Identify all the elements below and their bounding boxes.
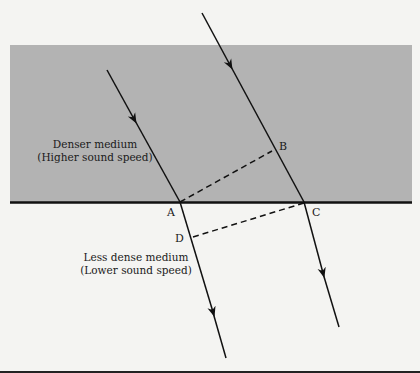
lower-medium-label-2: (Lower sound speed): [80, 264, 192, 276]
lower-medium-label-1: Less dense medium: [84, 251, 189, 263]
wavefront-dc: [193, 203, 304, 237]
point-label-c: C: [312, 206, 320, 219]
point-label-a: A: [166, 206, 176, 219]
refracted-ray-a-tail: [212, 309, 226, 358]
refraction-diagram: A B C D Denser medium (Higher sound spee…: [0, 0, 420, 373]
point-label-d: D: [175, 232, 184, 245]
upper-medium-label-1: Denser medium: [53, 138, 137, 150]
diagram-canvas: A B C D Denser medium (Higher sound spee…: [0, 0, 420, 373]
upper-medium-label-2: (Higher sound speed): [37, 151, 152, 163]
point-label-b: B: [279, 140, 287, 153]
denser-medium-region: [10, 45, 412, 202]
refracted-ray-c-tail: [322, 270, 339, 327]
